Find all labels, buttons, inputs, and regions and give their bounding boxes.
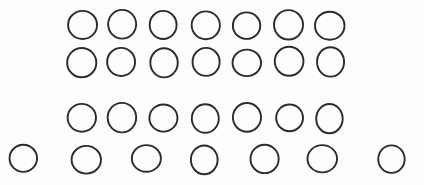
circle-item[interactable]	[68, 104, 96, 132]
circle-row-2	[67, 47, 344, 78]
circle-item[interactable]	[315, 12, 345, 40]
circle-item[interactable]	[192, 11, 220, 39]
worksheet-canvas	[0, 0, 424, 185]
circle-item[interactable]	[317, 47, 344, 76]
circle-item[interactable]	[150, 11, 177, 39]
circle-row-3	[68, 103, 343, 133]
circle-item[interactable]	[233, 12, 260, 39]
circle-item[interactable]	[193, 48, 220, 76]
circle-item[interactable]	[108, 10, 136, 39]
circle-item[interactable]	[107, 48, 135, 76]
circle-row-1	[68, 10, 344, 40]
circle-item[interactable]	[307, 145, 337, 172]
circle-item[interactable]	[67, 48, 96, 77]
circle-item[interactable]	[108, 103, 137, 133]
circle-item[interactable]	[276, 104, 303, 131]
circle-item[interactable]	[68, 11, 97, 39]
circle-item[interactable]	[274, 10, 303, 39]
circle-item[interactable]	[72, 146, 101, 174]
circle-item[interactable]	[132, 145, 161, 172]
circle-grid	[0, 0, 424, 185]
circle-item[interactable]	[233, 50, 262, 76]
circle-item[interactable]	[192, 104, 219, 133]
circle-item[interactable]	[10, 145, 38, 172]
circle-item[interactable]	[378, 145, 404, 173]
circle-item[interactable]	[149, 104, 177, 131]
circle-item[interactable]	[275, 47, 304, 76]
circle-item[interactable]	[316, 104, 342, 133]
circle-item[interactable]	[191, 146, 218, 175]
circle-item[interactable]	[233, 103, 261, 132]
circle-row-4	[10, 145, 405, 174]
circle-item[interactable]	[250, 145, 278, 173]
circle-item[interactable]	[150, 48, 177, 77]
